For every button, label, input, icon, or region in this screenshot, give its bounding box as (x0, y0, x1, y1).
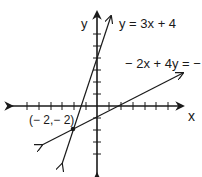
point-label: (− 2,− 2) (29, 113, 74, 127)
equation-label-1: y = 3x + 4 (119, 16, 176, 31)
line-y-3x-plus-4 (62, 16, 111, 164)
intersection-point (71, 127, 76, 132)
line-neg2x-plus-4y-eq-neg4 (42, 73, 183, 145)
y-axis-label: y (81, 16, 88, 31)
equation-label-2: − 2x + 4y = − 4 (125, 56, 202, 71)
coordinate-plane: y x y = 3x + 4 − 2x + 4y = − 4 (− 2,− 2) (0, 0, 202, 177)
x-axis-label: x (188, 108, 195, 124)
